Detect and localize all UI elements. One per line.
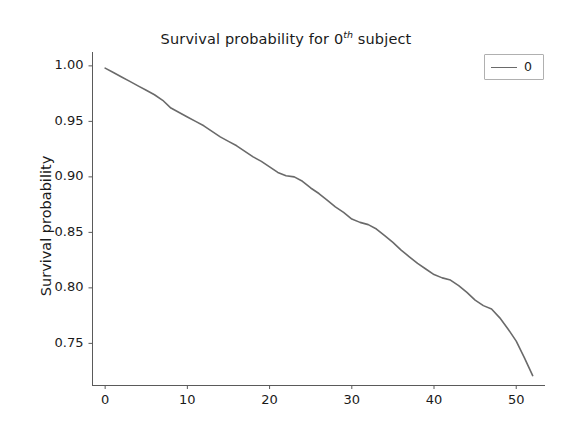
y-tick-label: 1.00 xyxy=(42,57,84,72)
legend-label: 0 xyxy=(524,61,532,74)
legend-line-swatch xyxy=(491,67,517,68)
y-tick-marks xyxy=(89,66,93,344)
x-tick-label: 40 xyxy=(414,392,454,407)
y-tick-label: 0.95 xyxy=(42,113,84,128)
x-tick-label: 10 xyxy=(167,392,207,407)
x-tick-label: 30 xyxy=(332,392,372,407)
x-tick-label: 20 xyxy=(250,392,290,407)
y-tick-label: 0.90 xyxy=(42,168,84,183)
x-tick-label: 0 xyxy=(85,392,125,407)
chart-figure: Survival probability for 0th subject Sur… xyxy=(0,0,572,447)
legend[interactable]: 0 xyxy=(484,54,544,80)
x-tick-label: 50 xyxy=(496,392,536,407)
y-tick-label: 0.75 xyxy=(42,335,84,350)
series-line xyxy=(105,68,533,375)
y-tick-label: 0.85 xyxy=(42,224,84,239)
y-tick-label: 0.80 xyxy=(42,279,84,294)
axis-spines xyxy=(92,52,545,386)
